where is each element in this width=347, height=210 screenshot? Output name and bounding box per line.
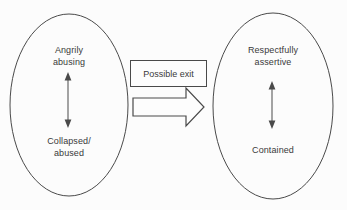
diagram-shapes xyxy=(0,0,347,210)
vertical-double-arrow-icon xyxy=(65,72,72,128)
left-ellipse-bottom-label: Collapsed/ abused xyxy=(29,135,109,159)
possible-exit-label: Possible exit xyxy=(143,69,194,79)
left-ellipse xyxy=(10,14,128,196)
right-block-arrow-icon xyxy=(133,88,204,126)
possible-exit-box: Possible exit xyxy=(130,60,207,87)
vertical-double-arrow-icon xyxy=(269,81,276,129)
left-ellipse-top-label: Angrily abusing xyxy=(29,44,109,68)
two-state-diagram: Angrily abusing Collapsed/ abused Possib… xyxy=(0,0,347,210)
right-ellipse xyxy=(213,13,333,199)
right-ellipse-top-label: Respectfully assertive xyxy=(233,44,313,68)
right-ellipse-bottom-label: Contained xyxy=(233,144,313,156)
